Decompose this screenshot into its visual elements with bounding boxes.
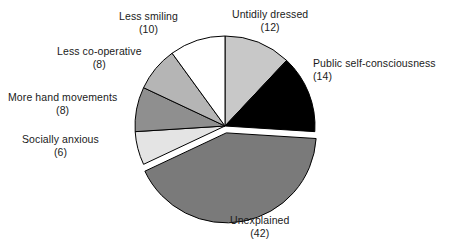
slice-label-less-smiling: Less smiling (10) bbox=[119, 10, 178, 36]
slice-label-value: (10) bbox=[119, 23, 178, 36]
slice-label-name: Socially anxious bbox=[22, 133, 99, 146]
slice-label-name: Less smiling bbox=[119, 10, 178, 23]
slice-label-value: (14) bbox=[313, 70, 436, 83]
slice-label-name: Unexplained bbox=[230, 214, 289, 227]
slice-label-value: (12) bbox=[232, 21, 308, 34]
slice-label-more-hand-movements: More hand movements (8) bbox=[8, 91, 117, 117]
slice-label-value: (8) bbox=[8, 104, 117, 117]
slice-label-untidily-dressed: Untidily dressed (12) bbox=[232, 8, 308, 34]
slice-label-public-self-consciousness: Public self-consciousness (14) bbox=[313, 57, 436, 83]
pie-chart-figure bbox=[0, 0, 453, 252]
pie-chart-page: Untidily dressed (12) Public self-consci… bbox=[0, 0, 453, 252]
pie-slices-group bbox=[135, 36, 316, 223]
slice-label-name: Untidily dressed bbox=[232, 8, 308, 21]
slice-label-name: Public self-consciousness bbox=[313, 57, 436, 70]
slice-label-value: (8) bbox=[57, 58, 142, 71]
slice-label-socially-anxious: Socially anxious (6) bbox=[22, 133, 99, 159]
slice-label-value: (42) bbox=[230, 227, 289, 240]
slice-label-name: More hand movements bbox=[8, 91, 117, 104]
slice-label-unexplained: Unexplained (42) bbox=[230, 214, 289, 240]
slice-label-value: (6) bbox=[22, 146, 99, 159]
slice-label-name: Less co-operative bbox=[57, 45, 142, 58]
slice-label-less-co-operative: Less co-operative (8) bbox=[57, 45, 142, 71]
